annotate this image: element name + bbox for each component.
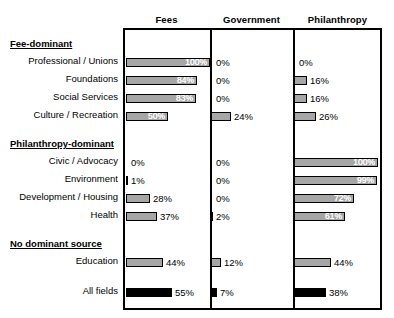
bar [126,176,128,185]
bar-value-label: 0% [216,94,230,103]
row-label: Culture / Recreation [34,109,118,120]
bar-value-label: 0% [216,76,230,85]
bar [211,112,231,121]
bar-value-label: 61% [325,212,342,221]
bar-value-label: 44% [166,258,185,267]
bar-value-label: 0% [216,176,230,185]
group-header: Philanthropy-dominant [10,138,114,149]
bar-value-label: 0% [216,194,230,203]
chart-canvas: Fees Government Philanthropy 100%0%0%84%… [0,0,394,318]
bar [294,258,331,267]
bar [126,288,172,297]
bar [211,212,213,221]
bar-value-label: 16% [310,76,329,85]
bar-value-label: 0% [299,58,313,67]
bar-value-label: 84% [177,76,194,85]
bar-value-label: 1% [131,176,145,185]
column-header-fees: Fees [123,14,210,25]
bar-value-label: 37% [160,212,179,221]
row-label: Health [91,209,118,220]
bar-value-label: 2% [216,212,230,221]
bar [126,258,163,267]
bar-value-label: 100% [353,158,375,167]
bar-value-label: 50% [148,112,165,121]
bar [211,288,217,297]
row-label: Foundations [66,73,118,84]
bar [294,94,307,103]
column-header-philanthropy: Philanthropy [293,14,382,25]
row-label: Environment [65,173,118,184]
row-label: All fields [83,285,118,296]
bar-value-label: 44% [334,258,353,267]
row-label: Professional / Unions [28,55,118,66]
column-header-government: Government [210,14,293,25]
bar-value-label: 72% [334,194,351,203]
bar-value-label: 7% [220,288,234,297]
bar [211,258,221,267]
plot-area: 100%0%0%84%0%16%83%0%16%50%24%26%0%0%100… [123,28,382,310]
row-label: Civic / Advocacy [49,155,118,166]
bar-value-label: 99% [357,176,374,185]
bar [294,288,326,297]
bar-value-label: 38% [329,288,348,297]
group-header: Fee-dominant [10,38,72,49]
bar-value-label: 16% [310,94,329,103]
group-header: No dominant source [10,238,102,249]
bar-value-label: 0% [131,158,145,167]
bar-value-label: 12% [224,258,243,267]
row-label: Development / Housing [19,191,118,202]
row-label: Education [76,255,118,266]
bar [294,112,316,121]
bar-value-label: 100% [185,58,207,67]
bar-value-label: 24% [234,112,253,121]
bar-value-label: 26% [319,112,338,121]
bar-value-label: 0% [216,158,230,167]
bar-value-label: 0% [216,58,230,67]
bar [294,76,307,85]
bar-value-label: 55% [175,288,194,297]
bar-value-label: 28% [153,194,172,203]
row-label: Social Services [53,91,118,102]
bar-value-label: 83% [176,94,193,103]
bar [126,194,150,203]
bar [126,212,157,221]
